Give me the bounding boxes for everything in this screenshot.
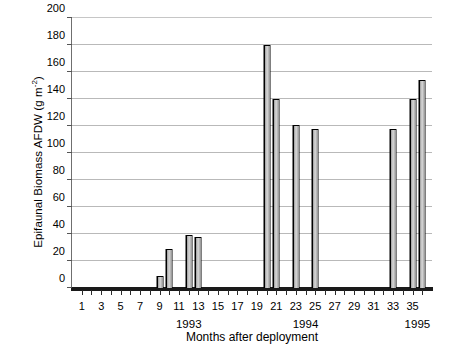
plot-area: 020406080100120140160180200 135791113151… — [72, 18, 432, 288]
bar — [273, 99, 280, 288]
y-tick-label: 160 — [47, 56, 65, 67]
y-tick-label: 140 — [47, 83, 65, 94]
x-tick-mark — [257, 290, 258, 295]
x-tick-mark — [374, 290, 375, 295]
x-tick-mark — [218, 290, 219, 295]
x-tick-mark — [276, 290, 277, 295]
x-tick-label: 15 — [212, 301, 224, 312]
y-tick-mark — [67, 125, 72, 126]
bar — [156, 276, 163, 288]
bar — [166, 249, 173, 288]
x-tick-mark — [140, 290, 141, 295]
y-tick-label: 80 — [53, 164, 65, 175]
x-tick-mark — [335, 290, 336, 295]
bar — [390, 129, 397, 288]
x-axis-line — [71, 287, 433, 291]
plot-frame — [72, 18, 432, 288]
y-tick-label: 180 — [47, 29, 65, 40]
x-tick-mark — [364, 290, 365, 295]
y-tick-label: 20 — [53, 245, 65, 256]
x-tick-mark — [82, 290, 83, 295]
gridline — [72, 125, 432, 126]
x-tick-mark — [393, 290, 394, 295]
x-tick-label: 17 — [231, 301, 243, 312]
x-tick-mark — [383, 290, 384, 295]
x-tick-mark — [413, 290, 414, 295]
x-tick-label: 35 — [406, 301, 418, 312]
y-tick-label: 120 — [47, 110, 65, 121]
x-tick-mark — [344, 290, 345, 295]
y-axis-title-text: Epifaunal Biomass AFDW (g m — [32, 87, 44, 248]
chart-figure: Epifaunal Biomass AFDW (g m-2) 020406080… — [0, 0, 453, 352]
y-tick-mark — [67, 233, 72, 234]
x-tick-mark — [179, 290, 180, 295]
x-tick-mark — [130, 290, 131, 295]
y-tick-label: 200 — [47, 2, 65, 13]
gridline — [72, 260, 432, 261]
y-tick-label: 0 — [59, 272, 65, 283]
gridline — [72, 152, 432, 153]
bar — [195, 237, 202, 288]
x-tick-mark — [121, 290, 122, 295]
year-label: 1994 — [293, 319, 319, 331]
gridline — [72, 206, 432, 207]
y-tick-label: 100 — [47, 137, 65, 148]
bar — [185, 235, 192, 288]
y-tick-label: 40 — [53, 218, 65, 229]
bar — [292, 125, 299, 288]
x-tick-mark — [315, 290, 316, 295]
x-tick-mark — [208, 290, 209, 295]
x-tick-label: 1 — [79, 301, 85, 312]
x-tick-mark — [111, 290, 112, 295]
x-tick-mark — [91, 290, 92, 295]
x-tick-label: 23 — [290, 301, 302, 312]
x-tick-label: 25 — [309, 301, 321, 312]
x-tick-label: 7 — [137, 301, 143, 312]
year-label: 1995 — [405, 319, 431, 331]
gridline — [72, 71, 432, 72]
x-tick-label: 5 — [118, 301, 124, 312]
x-tick-mark — [160, 290, 161, 295]
x-tick-mark — [354, 290, 355, 295]
y-tick-mark — [67, 206, 72, 207]
y-axis-title-exponent: -2 — [30, 80, 39, 87]
x-tick-label: 33 — [387, 301, 399, 312]
y-tick-label: 60 — [53, 191, 65, 202]
y-tick-mark — [67, 152, 72, 153]
x-tick-mark — [267, 290, 268, 295]
x-tick-mark — [237, 290, 238, 295]
x-tick-label: 9 — [157, 301, 163, 312]
x-axis-title: Months after deployment — [72, 330, 432, 344]
year-label: 1993 — [176, 319, 202, 331]
gridline — [72, 179, 432, 180]
x-tick-label: 13 — [192, 301, 204, 312]
x-tick-mark — [189, 290, 190, 295]
x-tick-label: 21 — [270, 301, 282, 312]
y-axis-title-close: ) — [32, 76, 44, 80]
x-tick-mark — [169, 290, 170, 295]
bar — [312, 129, 319, 288]
y-axis-title: Epifaunal Biomass AFDW (g m-2) — [30, 27, 44, 297]
y-tick-mark — [67, 98, 72, 99]
x-tick-mark — [403, 290, 404, 295]
x-tick-mark — [101, 290, 102, 295]
y-tick-mark — [67, 287, 72, 288]
x-tick-mark — [247, 290, 248, 295]
y-tick-mark — [67, 17, 72, 18]
x-tick-mark — [306, 290, 307, 295]
x-tick-mark — [325, 290, 326, 295]
y-tick-mark — [67, 260, 72, 261]
gridline — [72, 17, 432, 18]
y-tick-mark — [67, 179, 72, 180]
x-tick-mark — [228, 290, 229, 295]
gridline — [72, 233, 432, 234]
x-tick-label: 19 — [251, 301, 263, 312]
x-tick-mark — [150, 290, 151, 295]
y-tick-mark — [67, 71, 72, 72]
x-tick-mark — [296, 290, 297, 295]
x-tick-label: 31 — [367, 301, 379, 312]
bar — [263, 45, 270, 288]
gridline — [72, 44, 432, 45]
x-tick-mark — [286, 290, 287, 295]
x-tick-mark — [198, 290, 199, 295]
